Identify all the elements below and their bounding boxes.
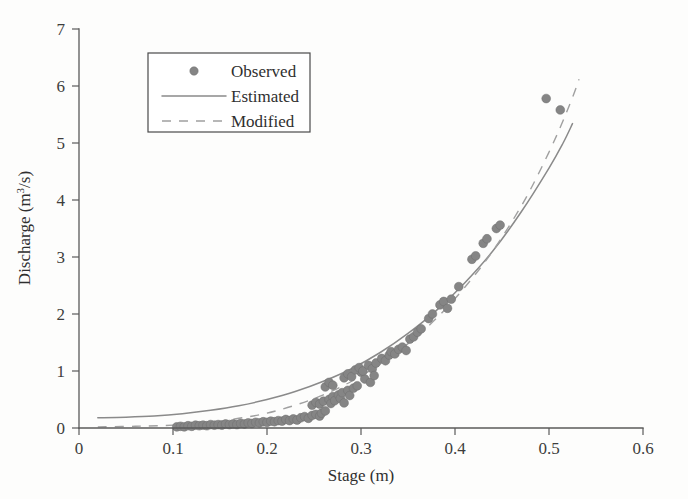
data-point (447, 295, 456, 304)
y-axis-title-tail: /s) (15, 171, 34, 188)
chart-legend[interactable]: ObservedEstimatedModified (148, 53, 310, 132)
y-tick-label: 1 (57, 362, 66, 381)
y-tick-label: 4 (57, 191, 66, 210)
data-point (556, 106, 565, 115)
data-point (428, 310, 437, 319)
data-point (402, 346, 411, 355)
legend-label-observed: Observed (231, 62, 297, 81)
data-point (496, 221, 505, 230)
data-point (321, 407, 330, 416)
x-tick-label: 0 (75, 439, 84, 458)
y-axis-ticks: 01234567 (57, 20, 80, 438)
y-tick-label: 2 (57, 305, 66, 324)
y-tick-label: 5 (57, 134, 66, 153)
x-tick-label: 0.3 (350, 439, 371, 458)
x-tick-label: 0.2 (256, 439, 277, 458)
y-axis-title: Discharge (m3/s) (14, 171, 34, 285)
x-tick-label: 0.6 (632, 439, 653, 458)
y-tick-label: 6 (57, 77, 66, 96)
y-tick-label: 0 (57, 419, 66, 438)
axis-labels-layer: Stage (m) Discharge (m3/s) (14, 171, 394, 485)
legend-label-modified: Modified (231, 112, 295, 131)
data-point (353, 381, 362, 390)
data-point (471, 251, 480, 260)
data-point (340, 399, 349, 408)
legend-label-estimated: Estimated (231, 87, 299, 106)
chart-figure: 00.10.20.30.40.50.6 01234567 Stage (m) D… (0, 0, 688, 499)
data-point (443, 304, 452, 313)
data-point (454, 282, 463, 291)
x-axis-ticks: 00.10.20.30.40.50.6 (75, 428, 654, 458)
series-points-observed (172, 94, 564, 431)
data-point (542, 94, 551, 103)
x-tick-label: 0.5 (538, 439, 559, 458)
y-axis-title-base: Discharge (m (15, 193, 34, 285)
data-point (370, 371, 379, 380)
x-tick-label: 0.1 (162, 439, 183, 458)
x-axis-title: Stage (m) (328, 466, 395, 485)
series-line-estimated (98, 124, 573, 418)
data-point (483, 234, 492, 243)
data-point (328, 381, 337, 390)
discharge-stage-chart: 00.10.20.30.40.50.6 01234567 Stage (m) D… (0, 0, 688, 499)
y-tick-label: 3 (57, 248, 66, 267)
x-tick-label: 0.4 (444, 439, 466, 458)
data-point (417, 324, 426, 333)
y-tick-label: 7 (57, 20, 66, 39)
legend-marker-observed (190, 67, 198, 75)
